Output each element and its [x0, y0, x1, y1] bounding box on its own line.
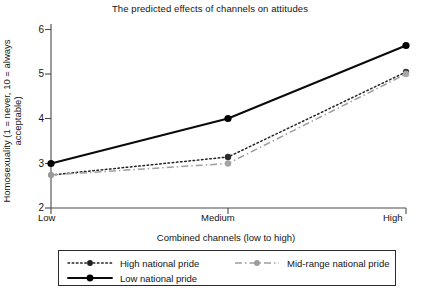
series-point-low-national-pride — [402, 42, 409, 49]
legend-label-low-national-pride: Low national pride — [120, 273, 197, 284]
series-point-high-national-pride — [225, 154, 231, 160]
series-line-low-national-pride — [51, 46, 406, 164]
legend-swatch-solid-icon — [67, 272, 113, 284]
legend-swatch-dotted-icon — [67, 257, 113, 269]
series-point-low-national-pride — [47, 160, 54, 167]
legend-swatch-dash-dot-icon — [234, 257, 280, 269]
chart-figure: The predicted effects of channels on att… — [0, 0, 421, 291]
series-point-mid-range-national-pride — [48, 172, 54, 178]
plot-canvas — [0, 0, 421, 291]
series-point-low-national-pride — [224, 115, 231, 122]
series-point-mid-range-national-pride — [403, 71, 409, 77]
legend-entry-high-national-pride: High national pride — [67, 255, 199, 271]
legend-entry-mid-range-national-pride: Mid-range national pride — [234, 255, 389, 271]
legend-label-high-national-pride: High national pride — [120, 258, 199, 269]
legend-entry-low-national-pride: Low national pride — [67, 270, 197, 286]
legend-label-mid-range-national-pride: Mid-range national pride — [287, 258, 389, 269]
series-point-mid-range-national-pride — [225, 160, 231, 166]
chart-legend: High national pride Mid-range national p… — [58, 250, 396, 286]
